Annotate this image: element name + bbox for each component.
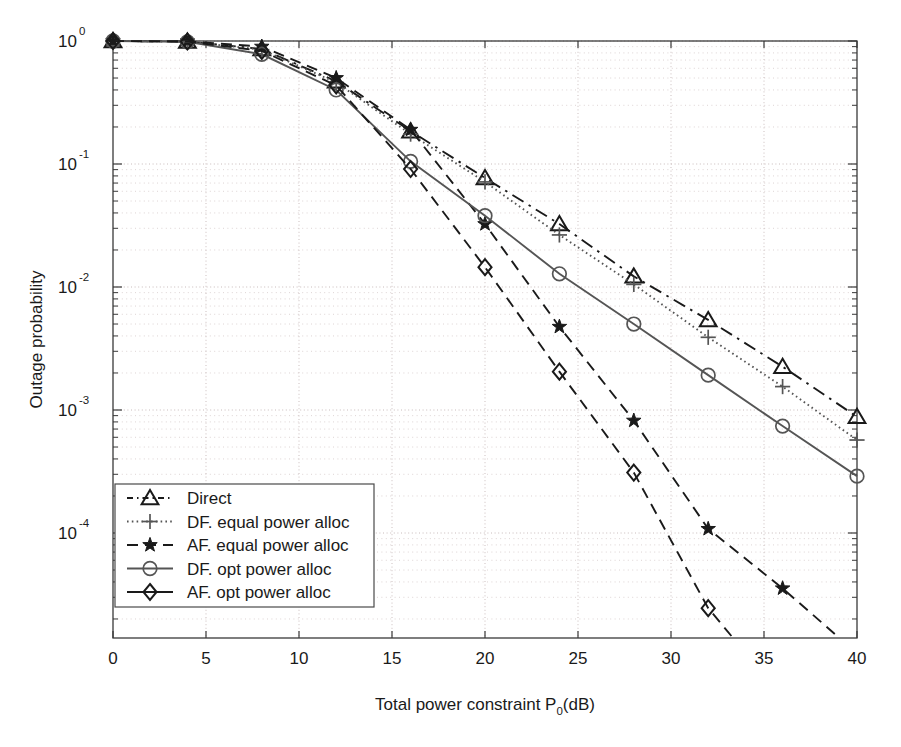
- x-tick-label: 30: [662, 649, 681, 668]
- x-tick-label: 25: [569, 649, 588, 668]
- data-point-marker: [849, 432, 864, 447]
- legend-label: Direct: [187, 489, 232, 508]
- figure-container: 051015202530354010010-110-210-310-4 Dire…: [0, 0, 901, 747]
- svg-text:-2: -2: [79, 271, 89, 283]
- y-tick-label: 10-2: [58, 271, 89, 297]
- svg-text:10: 10: [58, 524, 77, 543]
- data-point-marker: [477, 174, 492, 189]
- svg-text:-1: -1: [79, 148, 89, 160]
- x-axis-title: Total power constraint P0(dB): [375, 695, 595, 717]
- svg-text:10: 10: [58, 278, 77, 297]
- y-tick-label: 100: [58, 25, 85, 51]
- legend-label: DF. equal power alloc: [187, 513, 350, 532]
- svg-text:10: 10: [58, 155, 77, 174]
- svg-text:10: 10: [58, 401, 77, 420]
- x-tick-label: 35: [755, 649, 774, 668]
- y-tick-label: 10-1: [58, 148, 89, 174]
- x-tick-label: 15: [383, 649, 402, 668]
- svg-text:0: 0: [79, 25, 85, 37]
- data-point-marker: [701, 521, 715, 535]
- data-point-marker: [701, 330, 716, 345]
- x-tick-label: 10: [290, 649, 309, 668]
- data-point-marker: [775, 379, 790, 394]
- legend-label: AF. equal power alloc: [187, 536, 349, 555]
- data-point-marker: [774, 359, 791, 373]
- y-tick-label: 10-3: [58, 394, 89, 420]
- svg-text:10: 10: [58, 32, 77, 51]
- x-tick-label: 40: [848, 649, 867, 668]
- chart-svg: 051015202530354010010-110-210-310-4 Dire…: [0, 0, 901, 747]
- y-axis-title: Outage probability: [27, 270, 46, 408]
- x-tick-label: 0: [108, 649, 117, 668]
- data-point-marker: [627, 413, 641, 427]
- svg-text:-4: -4: [79, 517, 90, 529]
- svg-text:-3: -3: [79, 394, 89, 406]
- y-tick-label: 10-4: [58, 517, 90, 543]
- legend-label: AF. opt power alloc: [187, 583, 331, 602]
- x-tick-label: 20: [476, 649, 495, 668]
- legend-layer[interactable]: DirectDF. equal power allocAF. equal pow…: [115, 484, 374, 607]
- legend-label: DF. opt power alloc: [187, 560, 332, 579]
- x-tick-label: 5: [201, 649, 210, 668]
